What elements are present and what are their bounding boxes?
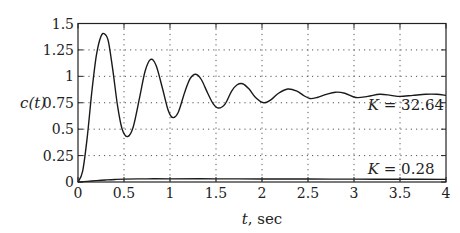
x-tick-label: 3 xyxy=(350,185,359,201)
y-tick-label: 0.75 xyxy=(43,95,74,111)
y-tick-label: 1.5 xyxy=(52,16,74,32)
y-tick-label: 0.5 xyxy=(52,121,74,137)
x-tick-label: 1.5 xyxy=(205,185,227,201)
y-axis-label: c(t) xyxy=(20,94,46,112)
y-tick-label: 1 xyxy=(65,68,74,84)
x-tick-label: 4 xyxy=(442,185,451,201)
x-tick-label: 3.5 xyxy=(389,185,411,201)
annotation-k-32-64: K = 32.64 xyxy=(367,96,444,114)
x-axis-label: t, sec xyxy=(242,210,283,228)
y-tick-label: 0.25 xyxy=(43,148,74,164)
y-tick-label: 1.25 xyxy=(43,42,74,58)
x-tick-label: 0.5 xyxy=(113,185,135,201)
x-tick-label: 2 xyxy=(258,185,267,201)
y-tick-label: 0 xyxy=(65,174,74,190)
x-tick-label: 1 xyxy=(166,185,175,201)
x-tick-label: 0 xyxy=(74,185,83,201)
x-axis-unit: , sec xyxy=(248,210,283,228)
step-response-chart: 00.511.522.533.54 00.250.50.7511.251.5 c… xyxy=(0,0,460,233)
curve-annotations: K = 32.64K = 0.28 xyxy=(367,96,444,177)
annotation-k-0-28: K = 0.28 xyxy=(367,160,435,178)
x-tick-label: 2.5 xyxy=(297,185,319,201)
